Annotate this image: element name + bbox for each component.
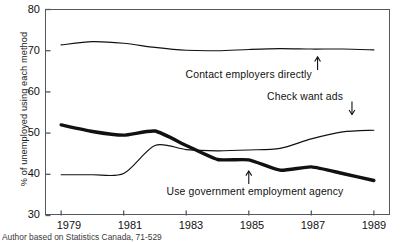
data-series-line-2 [61, 125, 374, 181]
axis-tick-marks [46, 10, 374, 216]
chart-canvas [0, 0, 407, 242]
data-series-group [61, 42, 374, 181]
source-note: Author based on Statistics Canada, 71-52… [2, 233, 252, 242]
annotation-label-use-government-agency: Use government employment agency [167, 186, 344, 198]
annotation-label-check-want-ads: Check want ads [267, 91, 343, 103]
annotation-label-contact-employers: Contact employers directly [186, 69, 312, 81]
data-series-line-0 [61, 42, 374, 51]
chart-figure: % of unemployed using each method 80 70 … [0, 0, 407, 242]
